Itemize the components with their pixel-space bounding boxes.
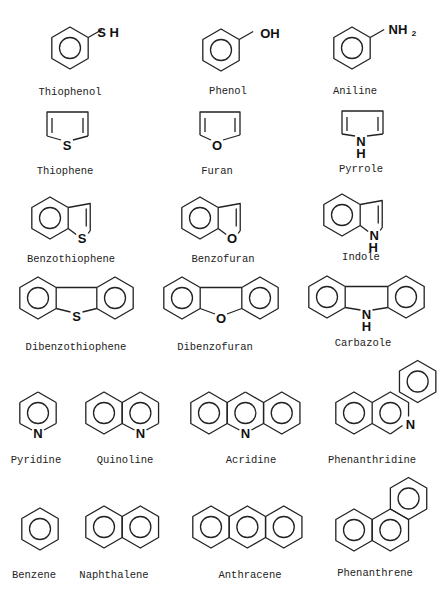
sulfur-atom-label: S (78, 231, 87, 246)
compound-name-label: Thiophenol (38, 86, 101, 98)
nitrogen-atom-label: N (241, 426, 250, 441)
pyrrole-structure: NHPyrrole (339, 111, 383, 175)
anthracene-structure: Anthracene (193, 506, 302, 581)
compound-name-label: Acridine (226, 454, 276, 466)
quinoline-structure: NQuinoline (86, 392, 159, 466)
compound-name-label: Phenol (209, 85, 247, 97)
compound-name-label: Dibenzothiophene (26, 341, 127, 353)
oxygen-atom-label: O (216, 311, 226, 326)
hydrogen-label: H (356, 146, 365, 161)
nitrogen-atom-label: N (136, 426, 145, 441)
oxygen-atom-label: O (212, 138, 222, 153)
benzofuran-structure: OBenzofuran (182, 197, 255, 265)
compound-name-label: Quinoline (97, 454, 154, 466)
compound-name-label: Phenanthrene (337, 567, 413, 579)
nitrogen-atom-label: N (406, 417, 415, 432)
compound-name-label: Naphthalene (79, 569, 148, 581)
furan-structure: OFuran (200, 112, 240, 177)
compound-name-label: Phenanthridine (328, 454, 416, 466)
compound-name-label: Benzofuran (191, 253, 254, 265)
phenanthridine-structure: NPhenanthridine (328, 361, 436, 467)
sulfur-atom-label: S (72, 309, 81, 324)
dibenzofuran-structure: ODibenzofuran (164, 277, 278, 353)
compound-name-label: Indole (342, 251, 380, 263)
compound-name-label: Pyrrole (339, 163, 383, 175)
compound-name-label: Dibenzofuran (177, 341, 253, 353)
compound-name-label: Benzene (12, 569, 56, 581)
nitrogen-atom-label: N (33, 426, 42, 441)
phenol-structure: OHPhenol (203, 26, 280, 97)
compound-name-label: Carbazole (335, 337, 392, 349)
hydrogen-label: H (362, 319, 371, 334)
sulfur-atom-label: S (63, 138, 72, 153)
structures-svg: S HThiophenolOHPhenolNH2AnilineSThiophen… (0, 0, 447, 590)
pyridine-structure: NPyridine (11, 392, 61, 466)
thiol-group-label: S H (97, 25, 119, 40)
amine-group-label: NH (389, 22, 408, 37)
oxygen-atom-label: O (227, 231, 237, 246)
compound-name-label: Aniline (333, 85, 377, 97)
compound-name-label: Pyridine (11, 454, 61, 466)
aniline-structure: NH2Aniline (333, 22, 417, 97)
compound-name-label: Furan (201, 165, 233, 177)
thiophenol-structure: S HThiophenol (38, 25, 118, 98)
indole-structure: NHIndole (324, 194, 382, 263)
subscript-2-label: 2 (412, 29, 417, 38)
acridine-structure: NAcridine (191, 392, 300, 466)
thiophene-structure: SThiophene (37, 112, 94, 177)
carbazole-structure: NHCarbazole (309, 276, 424, 349)
benzothiophene-structure: SBenzothiophene (27, 197, 115, 265)
dibenzothiophene-structure: SDibenzothiophene (20, 277, 133, 353)
compound-name-label: Benzothiophene (27, 253, 115, 265)
phenanthrene-structure: Phenanthrene (336, 478, 427, 580)
compound-name-label: Anthracene (218, 569, 281, 581)
chemical-structures-figure: S HThiophenolOHPhenolNH2AnilineSThiophen… (0, 0, 447, 590)
naphthalene-structure: Naphthalene (79, 506, 158, 581)
hydroxyl-group-label: OH (260, 26, 280, 41)
compound-name-label: Thiophene (37, 165, 94, 177)
benzene-structure: Benzene (12, 508, 58, 581)
